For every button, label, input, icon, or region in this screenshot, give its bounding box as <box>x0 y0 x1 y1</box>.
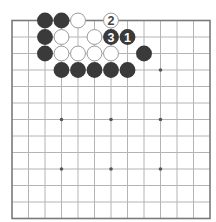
white-stone <box>87 46 102 61</box>
star-point <box>159 68 163 72</box>
black-stone: 3 <box>103 29 119 45</box>
star-point <box>109 118 113 122</box>
white-stone <box>87 30 102 45</box>
black-stone <box>70 62 86 78</box>
white-stone <box>71 46 86 61</box>
white-stone <box>104 46 119 61</box>
black-stone <box>54 13 70 29</box>
move-number-label: 1 <box>124 31 131 45</box>
black-stone <box>37 46 53 62</box>
black-stone <box>87 62 103 78</box>
white-stone <box>54 46 69 61</box>
star-point <box>159 118 163 122</box>
star-point <box>60 118 64 122</box>
star-point <box>60 167 64 171</box>
move-number-label: 3 <box>108 31 115 45</box>
star-point <box>159 167 163 171</box>
white-stone <box>54 30 69 45</box>
white-stone <box>71 13 86 28</box>
black-stone <box>103 62 119 78</box>
white-stone: 2 <box>104 13 119 28</box>
go-board: 231 <box>0 0 216 222</box>
black-stone: 1 <box>120 29 136 45</box>
black-stone <box>37 13 53 29</box>
star-point <box>109 167 113 171</box>
black-stone <box>120 62 136 78</box>
black-stone <box>136 46 152 62</box>
move-number-label: 2 <box>108 14 115 28</box>
black-stone <box>37 29 53 45</box>
black-stone <box>54 62 70 78</box>
